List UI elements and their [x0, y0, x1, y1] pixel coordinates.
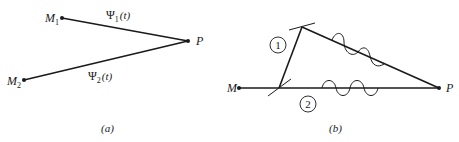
point-m — [237, 86, 241, 90]
label-m: M — [226, 81, 238, 95]
label-m2: M2 — [6, 74, 21, 90]
diagram-canvas: M1 M2 P Ψ1(t) Ψ2(t) (a) M P 1 — [0, 0, 459, 142]
point-p-a — [186, 39, 190, 43]
point-m1 — [60, 16, 64, 20]
panel-a: M1 M2 P Ψ1(t) Ψ2(t) (a) — [6, 8, 204, 135]
label-m1: M1 — [44, 11, 59, 27]
path-m1-p — [62, 18, 188, 41]
wave-slanted — [332, 33, 384, 66]
panel-b: M P 1 2 (b) — [226, 23, 454, 135]
label-p-a: P — [195, 34, 204, 48]
label-psi1: Ψ1(t) — [106, 8, 131, 24]
marker-2: 2 — [305, 98, 311, 110]
label-psi2: Ψ2(t) — [88, 69, 113, 85]
point-p-b — [437, 86, 441, 90]
label-p-b: P — [445, 81, 454, 95]
point-m2 — [22, 78, 26, 82]
caption-a: (a) — [101, 122, 114, 135]
marker-1: 1 — [275, 39, 281, 51]
caption-b: (b) — [329, 122, 342, 135]
